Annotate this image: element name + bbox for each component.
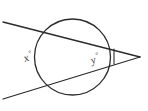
geometry-canvas: x ° y ° [0, 0, 148, 111]
geometry-diagram: x ° y ° [0, 0, 148, 111]
